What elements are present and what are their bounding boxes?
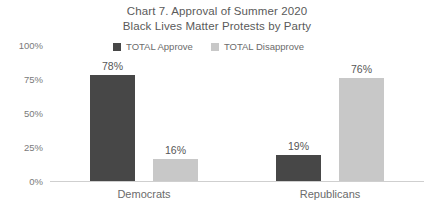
bar-value-label: 78% — [102, 60, 123, 72]
bar-rect — [339, 78, 384, 181]
bar-rect — [276, 155, 321, 181]
y-axis-tick-0: 0% — [29, 176, 43, 187]
x-axis-line — [50, 181, 424, 182]
chart-container: Chart 7. Approval of Summer 2020 Black L… — [0, 0, 434, 214]
chart-title-line-1: Chart 7. Approval of Summer 2020 — [0, 4, 434, 19]
y-axis-tick-25: 25% — [24, 142, 43, 153]
bar-rect — [90, 75, 135, 181]
bar-value-label: 76% — [351, 63, 372, 75]
y-axis-tick-50: 50% — [24, 108, 43, 119]
x-axis-category-republicans: Republicans — [250, 188, 410, 200]
plot-area: 100% 75% 50% 25% 0% 78% 16% 19% 76% — [50, 45, 424, 182]
bar-value-label: 16% — [165, 144, 186, 156]
bar-group-democrats: 78% 16% — [64, 45, 224, 181]
bar-group-republicans: 19% 76% — [250, 45, 410, 181]
y-axis-tick-75: 75% — [24, 74, 43, 85]
chart-title-line-2: Black Lives Matter Protests by Party — [0, 19, 434, 34]
x-axis-category-democrats: Democrats — [64, 188, 224, 200]
y-axis-tick-100: 100% — [19, 40, 43, 51]
bar-rect — [153, 159, 198, 181]
chart-title: Chart 7. Approval of Summer 2020 Black L… — [0, 4, 434, 34]
bar-value-label: 19% — [288, 140, 309, 152]
